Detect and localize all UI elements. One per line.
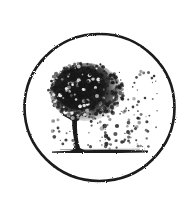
ground-line	[52, 149, 148, 153]
emblem-canvas: Circular emblem with a tree whose foliag…	[0, 0, 189, 200]
tree-emblem-logo	[0, 0, 189, 200]
